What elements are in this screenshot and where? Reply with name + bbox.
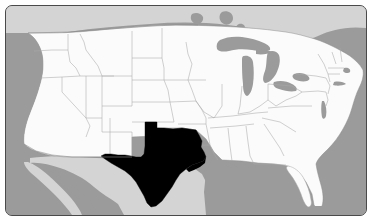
us-map-svg (6, 6, 366, 215)
us-locator-map-figure (0, 0, 372, 221)
map-frame (5, 5, 367, 216)
